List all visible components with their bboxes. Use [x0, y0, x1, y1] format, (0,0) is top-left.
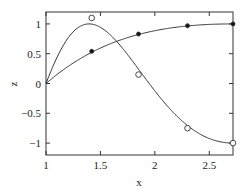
- x-tick-label: 1.5: [94, 159, 108, 171]
- x-tick-label: 2: [152, 159, 158, 171]
- filled-marker: [137, 32, 141, 36]
- filled-marker: [231, 22, 235, 26]
- data-markers: [89, 15, 236, 146]
- line-chart: 11.522.5 −1−0.500.51 x z: [0, 0, 244, 189]
- curve-2: [46, 24, 233, 143]
- y-tick-label: −1: [29, 137, 41, 149]
- open-marker: [185, 125, 191, 131]
- open-marker: [89, 15, 95, 21]
- x-tick-label: 1: [43, 159, 49, 171]
- plot-lines: [46, 24, 233, 143]
- x-axis-label: x: [136, 176, 142, 188]
- open-marker: [230, 140, 236, 146]
- filled-marker: [90, 49, 94, 53]
- filled-marker: [186, 24, 190, 28]
- y-tick-label: 0.5: [27, 48, 41, 60]
- y-tick-label: −0.5: [21, 107, 41, 119]
- open-marker: [136, 72, 142, 78]
- y-tick-label: 1: [36, 18, 42, 30]
- y-axis-label: z: [7, 81, 19, 86]
- x-tick-label: 2.5: [202, 159, 216, 171]
- y-tick-label: 0: [36, 78, 42, 90]
